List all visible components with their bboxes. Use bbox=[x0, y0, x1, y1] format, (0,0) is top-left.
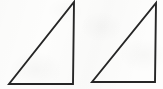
triangles-drawing: Two right triangles Two congruent right … bbox=[0, 0, 163, 89]
right-triangle bbox=[92, 3, 156, 82]
left-triangle bbox=[9, 2, 74, 84]
figure-canvas: Two right triangles Two congruent right … bbox=[0, 0, 163, 89]
